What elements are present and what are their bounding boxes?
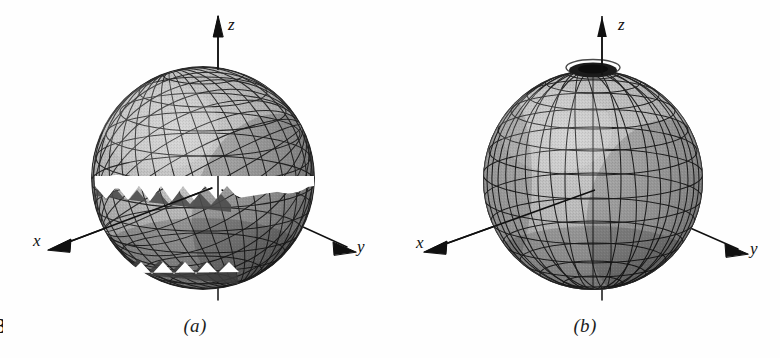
axis-label-y: y	[357, 238, 365, 255]
figure-panel-b: z x y (b)	[390, 0, 780, 358]
z-axis-front-a	[213, 16, 223, 70]
sphere-surface-b	[472, 60, 750, 321]
axis-label-x: x	[416, 234, 424, 251]
sphere-plot-a	[0, 0, 390, 358]
figure-root: z x y (a)	[0, 0, 780, 358]
y-axis-arrowhead	[333, 242, 356, 255]
page-edge-figure-number-fragment: 3	[0, 316, 3, 337]
panel-caption-a: (a)	[0, 315, 390, 337]
axis-label-z: z	[228, 16, 235, 33]
z-axis-arrowhead	[597, 16, 607, 37]
sphere-plot-b	[390, 0, 780, 358]
axis-label-y: y	[750, 240, 758, 257]
axis-label-z: z	[618, 16, 625, 33]
sphere-surface-a	[52, 28, 366, 327]
axis-label-x: x	[33, 232, 41, 249]
panel-caption-b: (b)	[390, 315, 780, 337]
y-axis-arrowhead	[725, 244, 748, 257]
figure-panel-a: z x y (a)	[0, 0, 390, 358]
